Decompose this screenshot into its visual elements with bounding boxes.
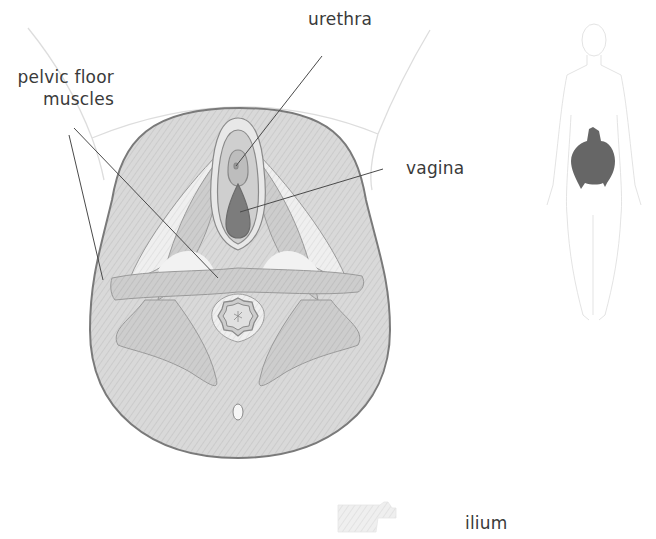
coccyx [233,404,243,420]
label-pelvic-floor-muscles: pelvic floor muscles [10,66,114,110]
label-pelvic-floor-line2: muscles [10,88,114,110]
body-locator-inset [547,24,641,320]
pelvic-floor-diagram: urethra pelvic floor muscles vagina iliu… [0,0,656,539]
vulva [211,118,266,250]
pelvis-highlight [571,127,615,189]
ilium-legend-swatch [338,502,396,532]
label-vagina: vagina [406,157,464,179]
legend-label-ilium: ilium [465,512,508,534]
label-pelvic-floor-line1: pelvic floor [10,66,114,88]
label-urethra: urethra [308,8,372,30]
